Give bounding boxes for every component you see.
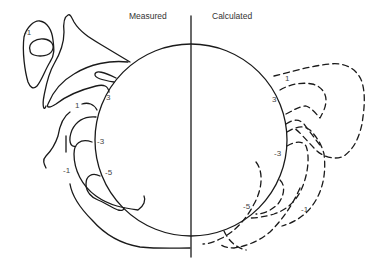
measured-label-neg5: -5 [105,169,112,177]
measured-label-1: 1 [75,102,79,110]
measured-contour-neg1-bottom [66,136,190,248]
measured-label-neg3: -3 [97,138,104,146]
calculated-label-neg1: -1 [301,206,308,214]
measured-contour-3 [47,62,128,108]
calculated-label-1: 1 [285,75,289,83]
measured-contour-small-finger [95,72,116,82]
calculated-contour-neg1 [203,162,300,248]
measured-contour-neg3 [70,117,145,210]
measured-label-3: 3 [106,94,110,102]
calculated-label-neg5: -5 [243,203,250,211]
calculated-label-3: 3 [272,96,276,104]
measured-label-neg1-top: -1 [24,29,31,37]
calculated-contour-3 [280,83,326,118]
measured-label-neg1-bottom: -1 [63,167,70,175]
diagram-canvas [0,0,391,272]
contour-diagram: Measured Calculated -1 3 1 -3 -5 -1 1 3 … [0,0,391,272]
measured-contour-neg1-inner-loop [30,39,53,56]
panel-title-calculated: Calculated [212,12,252,21]
panel-title-measured: Measured [129,12,167,21]
calculated-label-neg3: -3 [274,150,281,158]
